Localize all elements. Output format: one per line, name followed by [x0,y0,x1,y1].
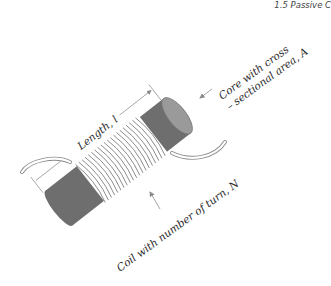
coil-arrow [150,192,160,209]
coil-label: Coil with number of turn, N [114,176,241,273]
coil-label-text: Coil with number of turn, N [114,176,241,273]
core-arrow [200,89,212,98]
core-label: Core with cross – sectional area, A [216,34,310,112]
